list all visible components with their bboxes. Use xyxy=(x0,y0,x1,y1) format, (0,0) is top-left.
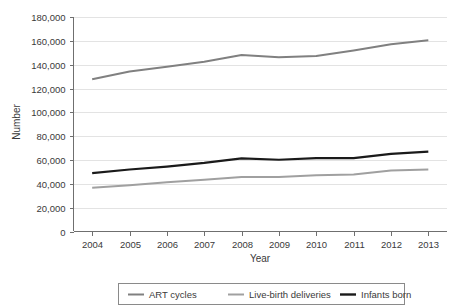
legend-label-live-birth-deliveries: Live-birth deliveries xyxy=(249,289,331,300)
x-tick-label: 2012 xyxy=(381,239,402,250)
y-tick-label: 20,000 xyxy=(36,203,65,214)
series-line-live-birth-deliveries xyxy=(92,170,428,188)
y-axis-tick-marks xyxy=(70,18,74,233)
y-tick-label: 120,000 xyxy=(31,84,65,95)
x-axis-tick-marks xyxy=(93,232,429,236)
y-tick-label: 100,000 xyxy=(31,107,65,118)
y-tick-label: 160,000 xyxy=(31,36,65,47)
data-series-lines xyxy=(92,40,428,188)
y-axis-title: Number xyxy=(11,104,22,140)
line-chart-figure: 020,00040,00060,00080,000100,000120,0001… xyxy=(0,0,459,307)
x-tick-label: 2009 xyxy=(269,239,290,250)
x-tick-label: 2006 xyxy=(157,239,178,250)
y-tick-label: 140,000 xyxy=(31,60,65,71)
x-tick-label: 2004 xyxy=(82,239,103,250)
x-tick-label: 2008 xyxy=(232,239,253,250)
legend-entries: ART cyclesLive-birth deliveriesInfants b… xyxy=(128,289,411,300)
y-axis-tick-labels: 020,00040,00060,00080,000100,000120,0001… xyxy=(31,12,65,238)
x-axis-tick-labels: 2004200520062007200820092010201120122013 xyxy=(82,239,439,250)
x-tick-label: 2011 xyxy=(344,239,364,250)
x-tick-label: 2007 xyxy=(194,239,215,250)
legend-label-art-cycles: ART cycles xyxy=(149,289,197,300)
y-tick-label: 60,000 xyxy=(36,155,65,166)
gridlines xyxy=(74,18,448,209)
y-tick-label: 80,000 xyxy=(36,131,65,142)
x-tick-label: 2013 xyxy=(418,239,439,250)
series-line-infants-born xyxy=(92,152,428,173)
y-tick-label: 180,000 xyxy=(31,12,65,23)
legend-label-infants-born: Infants born xyxy=(361,289,411,300)
x-axis-title: Year xyxy=(250,253,271,264)
chart-canvas: 020,00040,00060,00080,000100,000120,0001… xyxy=(0,0,459,307)
x-tick-label: 2005 xyxy=(120,239,141,250)
x-tick-label: 2010 xyxy=(306,239,327,250)
y-tick-label: 40,000 xyxy=(36,179,65,190)
series-line-art-cycles xyxy=(92,40,428,79)
y-tick-label: 0 xyxy=(60,227,65,238)
